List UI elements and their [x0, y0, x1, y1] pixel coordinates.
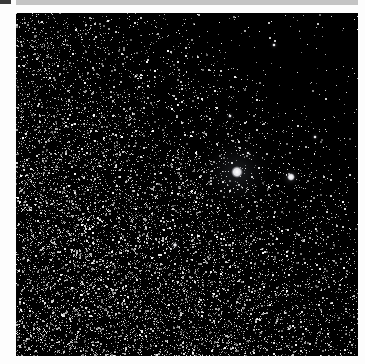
starfield-photo — [16, 13, 358, 356]
starfield-canvas — [16, 13, 358, 356]
corner-block — [0, 0, 11, 4]
page: Starfield astrophotograph with a bright … — [0, 0, 365, 364]
top-bar — [16, 0, 358, 5]
